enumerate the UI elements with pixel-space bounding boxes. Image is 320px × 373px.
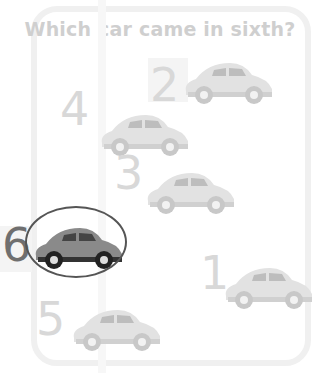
- position-number: 2: [150, 62, 179, 108]
- position-number: 4: [60, 86, 89, 132]
- car-icon[interactable]: [140, 167, 240, 217]
- position-number: 3: [114, 150, 143, 196]
- car-icon[interactable]: [94, 109, 194, 159]
- position-number: 5: [36, 296, 65, 342]
- question-title: Which car came in sixth?: [0, 18, 320, 40]
- car-icon[interactable]: [178, 57, 278, 107]
- car-icon[interactable]: [66, 304, 166, 354]
- car-icon[interactable]: [218, 262, 318, 312]
- selection-ellipse: [25, 206, 127, 278]
